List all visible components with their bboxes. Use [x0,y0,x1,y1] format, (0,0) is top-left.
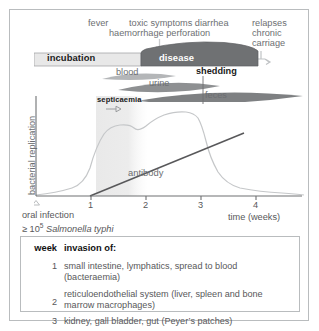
table-cell-week: 1 [21,261,64,271]
table-cell-invasion: reticuloendothelial system (liver, splee… [64,289,279,311]
table-row: 2 reticuloendothelial system (liver, spl… [21,286,299,313]
table-cell-invasion: small intestine, lymphatics, spread to b… [64,261,291,283]
oral-infection-label: oral infection [22,211,74,221]
x-tick-4: 4 [253,201,258,211]
origin-arrow-icon [34,201,40,206]
table-header-row: week invasion of: [21,237,299,257]
x-axis-label: time (weeks) [228,213,280,223]
table-row: 1 small intestine, lymphatics, spread to… [21,257,299,285]
infection-dose: ≥ 105 Salmonella typhi [22,222,113,235]
shedding-route-blood: blood [116,68,138,78]
shedding-route-urine: urine [149,79,169,89]
dose-exponent: 5 [40,222,44,229]
axis-lines [34,96,306,212]
table-cell-week: 3 [21,316,64,326]
table-cell-invasion: kidney, gall bladder, gut (Peyer’s patch… [64,316,232,327]
y-axis-label: bacterial replication [28,116,38,195]
table-row: 3 kidney, gall bladder, gut (Peyer’s pat… [21,313,299,329]
table-header-week: week [21,243,64,253]
dose-prefix: ≥ 10 [22,224,40,234]
x-tick-1: 1 [88,201,93,211]
x-tick-3: 3 [198,201,203,211]
x-tick-2: 2 [143,201,148,211]
organism-name: Salmonella typhi [46,224,113,234]
x-ticks [91,196,256,200]
table-header-invasion: invasion of: [64,243,116,254]
phase-label-incubation: incubation [47,53,95,63]
invasion-table: week invasion of: 1 small intestine, lym… [20,236,300,312]
table-cell-week: 2 [21,289,64,307]
typhoid-infection-figure: fever toxic symptoms diarrhea haemorrhag… [0,0,319,331]
symptom-fever: fever [88,19,108,29]
phase-label-disease: disease [159,53,194,63]
symptom-haemorrhage: haemorrhage perforation [109,29,210,39]
